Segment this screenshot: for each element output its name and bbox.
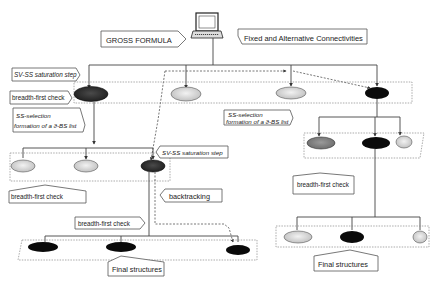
flowchart: GROSS FORMULA Fixed and Alternative Conn… bbox=[0, 0, 436, 289]
svg-text:Final structures: Final structures bbox=[318, 260, 368, 269]
svg-text:backtracking: backtracking bbox=[169, 192, 210, 201]
dashed-arrow bbox=[158, 71, 165, 120]
svg-text:breadth-first check: breadth-first check bbox=[78, 220, 131, 227]
structure-node bbox=[74, 87, 108, 102]
svg-text:SV-SS saturation step: SV-SS saturation step bbox=[162, 149, 223, 156]
svg-text:formation of a ϑ-BS list: formation of a ϑ-BS list bbox=[14, 122, 77, 129]
structure-node bbox=[106, 242, 136, 252]
computer-icon bbox=[191, 13, 223, 38]
breadth-first-check-label: breadth-first check bbox=[75, 217, 145, 229]
svg-text:Fixed and Alternative Connecti: Fixed and Alternative Connectivities bbox=[244, 34, 363, 43]
structure-node bbox=[413, 231, 427, 243]
structure-node bbox=[340, 231, 364, 243]
structure-node bbox=[141, 160, 165, 172]
structure-node bbox=[307, 137, 335, 149]
svg-text:SS-selection: SS-selection bbox=[228, 111, 263, 118]
breadth-first-check-label: breadth-first check bbox=[10, 91, 72, 104]
structure-node bbox=[226, 245, 250, 255]
structure-node bbox=[171, 87, 201, 101]
backtracking-label: backtracking bbox=[160, 189, 222, 202]
final-structures-label: Final structures bbox=[314, 250, 378, 271]
structure-node bbox=[365, 87, 389, 99]
svg-text:formation of a ϑ-BS list: formation of a ϑ-BS list bbox=[226, 118, 289, 125]
structure-node bbox=[28, 242, 58, 252]
svg-text:GROSS FORMULA: GROSS FORMULA bbox=[106, 36, 172, 45]
svg-text:SS-selection: SS-selection bbox=[16, 112, 51, 119]
svg-text:breadth-first check: breadth-first check bbox=[11, 193, 64, 200]
svg-text:breadth-first check: breadth-first check bbox=[297, 181, 350, 188]
structure-node bbox=[362, 137, 390, 149]
final-structures-label: Final structures bbox=[108, 256, 164, 276]
ss-selection-label: SS-selection formation of a ϑ-BS list bbox=[13, 108, 85, 132]
structure-node bbox=[276, 87, 306, 99]
ss-selection-label: SS-selection formation of a ϑ-BS list bbox=[224, 110, 293, 125]
dashed-arrow bbox=[293, 71, 370, 88]
gross-formula-label: GROSS FORMULA bbox=[101, 31, 186, 47]
structure-node bbox=[396, 136, 412, 148]
node-group bbox=[74, 82, 412, 103]
svg-text:breadth-first check: breadth-first check bbox=[12, 94, 65, 101]
sv-ss-saturation-step-label: SV-SS saturation step bbox=[12, 68, 80, 81]
svg-text:Final structures: Final structures bbox=[112, 265, 162, 274]
breadth-first-check-label: breadth-first check bbox=[293, 173, 354, 194]
structure-node bbox=[74, 160, 98, 172]
structure-node bbox=[11, 160, 35, 172]
fixed-alternative-connectivities-label: Fixed and Alternative Connectivities bbox=[238, 29, 367, 44]
svg-text:SV-SS saturation step: SV-SS saturation step bbox=[14, 71, 77, 79]
dashed-arrow bbox=[155, 172, 233, 242]
structure-node bbox=[284, 231, 312, 243]
sv-ss-saturation-step-label: SV-SS saturation step bbox=[156, 146, 228, 158]
breadth-first-check-label: breadth-first check bbox=[9, 185, 86, 203]
